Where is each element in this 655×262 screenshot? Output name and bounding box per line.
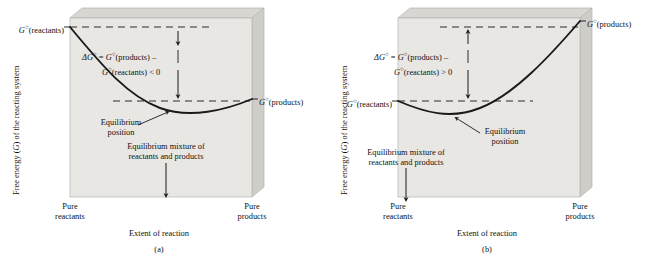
x-label-pure-reactants-line1: Pure xyxy=(368,202,428,212)
label-equilibrium-position-line1: Equilibrium xyxy=(92,118,150,128)
label-g-reactants: G○(reactants) xyxy=(0,22,64,36)
x-label-pure-products-line2: products xyxy=(550,212,610,222)
x-label-pure-products-line1: Pure xyxy=(550,202,610,212)
free-energy-figure: Free energy (G) of the reacting system G… xyxy=(0,0,655,262)
panel-a-graphic xyxy=(0,0,327,262)
delta-g-equation-line2: G○(reactants) < 0 xyxy=(82,63,160,78)
panel-a: Free energy (G) of the reacting system G… xyxy=(0,0,327,262)
label-g-products: G○(products) xyxy=(587,16,631,30)
x-label-pure-reactants-line2: reactants xyxy=(40,212,100,222)
x-label-pure-products-line1: Pure xyxy=(222,202,282,212)
label-equilibrium-position-line2: position xyxy=(476,137,534,147)
delta-g-equation-line1: ΔG○ = G○(products) – xyxy=(82,53,156,62)
slab-side-face xyxy=(580,8,592,197)
label-equilibrium-mixture-line1: Equilibrium mixture of xyxy=(96,142,236,152)
x-axis-label: Extent of reaction xyxy=(432,229,542,239)
y-axis-label: Free energy (G) of the reacting system xyxy=(340,66,349,195)
x-label-pure-reactants-line2: reactants xyxy=(368,212,428,222)
delta-g-equation-line1: ΔG○ = G○(products) – xyxy=(374,53,448,62)
y-axis-label: Free energy (G) of the reacting system xyxy=(12,66,21,195)
x-axis-label: Extent of reaction xyxy=(104,229,214,239)
label-equilibrium-mixture-line2: reactants and products xyxy=(96,152,236,162)
label-equilibrium-position-line2: position xyxy=(92,128,150,138)
label-g-reactants: G○(reactants) xyxy=(316,96,392,110)
x-label-pure-reactants-line1: Pure xyxy=(40,202,100,212)
label-equilibrium-position-line1: Equilibrium xyxy=(476,127,534,137)
x-label-pure-products-line2: products xyxy=(222,212,282,222)
slab-top-face xyxy=(398,8,592,18)
delta-g-equation: ΔG○ = G○(products) – G○(reactants) < 0 xyxy=(82,48,160,78)
label-equilibrium-mixture-line1: Equilibrium mixture of xyxy=(336,148,476,158)
slab-front-face xyxy=(398,18,580,197)
label-equilibrium-mixture-line2: reactants and products xyxy=(336,158,476,168)
delta-g-equation: ΔG○ = G○(products) – G○(reactants) > 0 xyxy=(374,48,452,78)
slab-top-face xyxy=(70,8,264,18)
panel-caption-a: (a) xyxy=(129,245,189,254)
delta-g-equation-line2: G○(reactants) > 0 xyxy=(374,63,452,78)
label-g-products: G○(products) xyxy=(259,94,303,108)
panel-b: Free energy (G) of the reacting system G… xyxy=(328,0,655,262)
panel-caption-b: (b) xyxy=(457,245,517,254)
